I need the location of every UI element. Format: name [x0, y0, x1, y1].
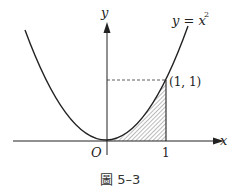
x-axis-label: x	[220, 133, 228, 148]
y-axis-arrow-icon	[104, 22, 111, 33]
shaded-area	[107, 80, 166, 141]
curve-label: y = x 2	[171, 10, 209, 28]
x-tick-label-1: 1	[162, 146, 170, 160]
y-axis-label: y	[100, 5, 109, 20]
origin-label: O	[91, 145, 102, 160]
parabola-diagram: y x O 1 (1, 1) y = x 2 圖 5–3	[0, 0, 236, 196]
curve-label-text: y = x	[171, 13, 207, 28]
figure-caption: 圖 5–3	[100, 172, 140, 187]
curve-label-exponent: 2	[204, 10, 209, 19]
point-label: (1, 1)	[169, 75, 201, 89]
